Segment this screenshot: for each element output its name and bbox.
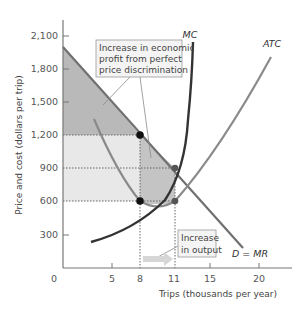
mc-label: MC: [183, 29, 198, 40]
x-tick-11: 11: [168, 273, 180, 284]
single-price-profit-area: [63, 135, 140, 201]
profit-annotation-line2: profit from perfect: [99, 54, 182, 64]
x-tick-15: 15: [204, 273, 216, 284]
profit-annotation-line1: Increase in economic: [99, 43, 194, 53]
profit-annotation-line3: price discrimination: [99, 65, 188, 75]
point-discrimination-atc: [172, 198, 179, 205]
x-tick-20: 20: [253, 273, 265, 284]
x-tick-8: 8: [137, 273, 143, 284]
output-annotation-line1: Increase: [181, 233, 220, 243]
y-tick-2100: 2,100: [31, 30, 58, 41]
x-axis-title: Trips (thousands per year): [158, 289, 277, 299]
demand-label: D = MR: [232, 248, 268, 259]
atc-label: ATC: [262, 38, 282, 49]
y-tick-600: 600: [40, 195, 58, 206]
y-axis-title: Price and cost (dollars per trip): [14, 75, 24, 214]
point-single-atc: [136, 197, 144, 205]
point-single-price: [136, 131, 144, 139]
y-tick-1800: 1,800: [31, 63, 58, 74]
increase-output-arrow-icon: [143, 252, 173, 266]
y-tick-900: 900: [40, 162, 58, 173]
x-tick-0: 0: [51, 273, 57, 284]
point-discrimination-output: [172, 165, 179, 172]
y-tick-1500: 1,500: [31, 96, 58, 107]
profit-annotation-pointer-1: [103, 77, 130, 105]
y-tick-300: 300: [40, 229, 58, 240]
x-tick-5: 5: [109, 273, 115, 284]
y-tick-1200: 1,200: [31, 129, 58, 140]
output-annotation-line2: in output: [181, 245, 222, 255]
chart: 2,100 1,800 1,500 1,200 900 600 300 0 5 …: [0, 0, 305, 311]
x-ticks: [112, 263, 259, 268]
